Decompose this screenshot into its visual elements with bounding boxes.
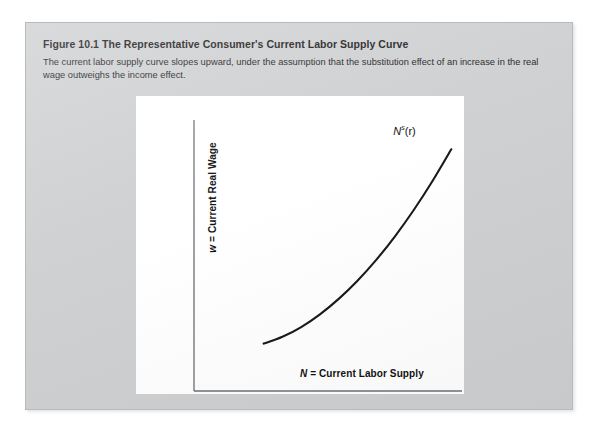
- y-axis-label-rest: = Current Real Wage: [207, 142, 218, 245]
- curve-series-label: Ns(r): [393, 124, 415, 137]
- figure-number: Figure 10.1: [43, 38, 99, 50]
- y-axis-label: w = Current Real Wage: [207, 118, 218, 278]
- figure-title-text: The Representative Consumer's Current La…: [102, 38, 408, 50]
- x-axis-label-rest: = Current Labor Supply: [307, 368, 423, 379]
- x-axis-label: N = Current Labor Supply: [300, 368, 424, 379]
- y-axis-variable: w: [207, 245, 218, 253]
- figure-description: The current labor supply curve slopes up…: [43, 56, 541, 81]
- figure-panel: Figure 10.1 The Representative Consumer'…: [25, 22, 573, 410]
- labor-supply-chart: [136, 96, 464, 394]
- figure-title-line: Figure 10.1 The Representative Consumer'…: [43, 37, 551, 51]
- figure-caption: Figure 10.1 The Representative Consumer'…: [43, 37, 551, 81]
- labor-supply-curve: [264, 149, 452, 343]
- figure-page: Figure 10.1 The Representative Consumer'…: [0, 0, 598, 431]
- plot-card: w = Current Real Wage N = Current Labor …: [136, 96, 464, 394]
- curve-label-argument: (r): [405, 125, 416, 137]
